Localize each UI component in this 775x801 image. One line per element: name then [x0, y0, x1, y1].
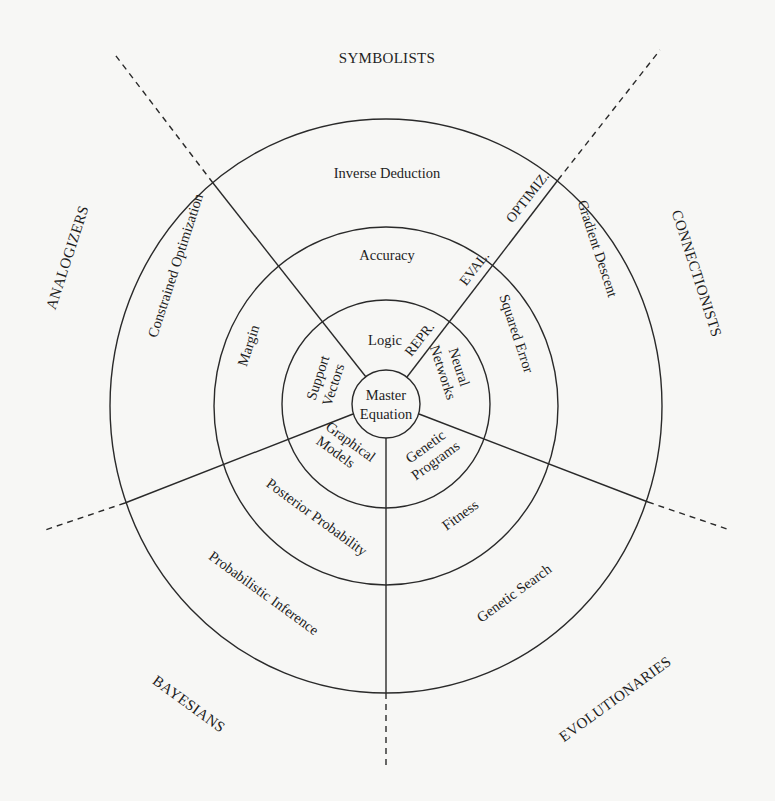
evaluation-symbolists: Accuracy: [359, 247, 415, 263]
five-tribes-diagram: Master Equation SYMBOLISTS CONNECTIONIST…: [0, 0, 775, 801]
spoke-lower-left: [125, 414, 353, 503]
tribe-connectionists: CONNECTIONISTS: [669, 208, 725, 339]
evaluation-analogizers: Margin: [234, 322, 263, 368]
tribe-bayesians: BAYESIANS: [150, 672, 229, 735]
spoke-lower-right: [419, 414, 648, 502]
evaluation-evolutionaries: Fitness: [439, 496, 482, 533]
optimization-evolutionaries: Genetic Search: [474, 560, 555, 625]
dashed-extension-lower-left: [45, 503, 125, 530]
spoke-upper-left: [213, 183, 366, 377]
ring-label-evaluation: EVAL.: [457, 248, 493, 288]
tribe-analogizers: ANALOGIZERS: [43, 203, 92, 311]
optimization-bayesians: Probabilistic Inference: [206, 548, 322, 638]
center-circle: [352, 370, 420, 438]
tribe-evolutionaries: EVOLUTIONARIES: [556, 653, 674, 745]
center-label-line2: Equation: [360, 406, 413, 422]
representation-symbolists: Logic: [368, 332, 402, 348]
dashed-extension-upper-left: [113, 52, 213, 183]
dashed-extension-lower-right: [648, 502, 730, 530]
optimization-analogizers: Constrained Optimization: [144, 191, 206, 340]
tribe-symbolists: SYMBOLISTS: [339, 50, 435, 66]
center-label-line1: Master: [366, 387, 406, 403]
optimization-symbolists: Inverse Deduction: [334, 165, 441, 181]
optimization-connectionists: Gradient Descent: [575, 198, 621, 299]
dashed-extension-upper-right: [558, 50, 660, 180]
evaluation-connectionists: Squared Error: [497, 292, 538, 375]
